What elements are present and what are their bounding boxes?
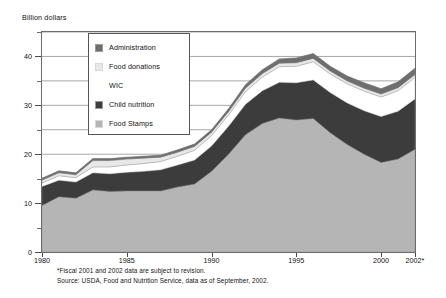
- chart-figure: Billion dollars 010203040 19801985199019…: [0, 0, 446, 298]
- y-tick-label: 10: [10, 199, 32, 208]
- x-tick-label: 1985: [119, 256, 135, 265]
- legend-item-administration: Administration: [89, 38, 189, 57]
- chart-legend: AdministrationFood donationsWICChild nut…: [88, 33, 190, 135]
- x-tick-label: 1990: [204, 256, 220, 265]
- legend-label: WIC: [109, 81, 123, 90]
- legend-label: Food Stamps: [109, 119, 153, 128]
- footnote-source: Source: USDA, Food and Nutrition Service…: [57, 276, 269, 286]
- legend-item-food-stamps: Food Stamps: [89, 114, 189, 133]
- footnote-revision: *Fiscal 2001 and 2002 data are subject t…: [57, 266, 269, 276]
- x-tick-label: 1995: [288, 256, 304, 265]
- legend-swatch-icon: [95, 82, 103, 90]
- legend-swatch-icon: [95, 44, 103, 52]
- legend-swatch-icon: [95, 101, 103, 109]
- x-tick-label: 2002*: [406, 256, 425, 265]
- legend-label: Administration: [109, 43, 156, 52]
- y-tick-label: 30: [10, 101, 32, 110]
- y-tick-label: 20: [10, 150, 32, 159]
- y-axis-title: Billion dollars: [22, 13, 67, 22]
- legend-label: Child nutrition: [109, 100, 154, 109]
- legend-swatch-icon: [95, 63, 103, 71]
- legend-item-food-donations: Food donations: [89, 57, 189, 76]
- footnote-block: *Fiscal 2001 and 2002 data are subject t…: [57, 266, 269, 285]
- x-tick-label: 1980: [34, 256, 50, 265]
- legend-item-child-nutrition: Child nutrition: [89, 95, 189, 114]
- legend-label: Food donations: [109, 62, 160, 71]
- y-tick-label: 40: [10, 52, 32, 61]
- legend-swatch-icon: [95, 120, 103, 128]
- x-tick-label: 2000: [373, 256, 389, 265]
- y-tick-label: 0: [10, 248, 32, 257]
- legend-item-wic: WIC: [89, 76, 189, 95]
